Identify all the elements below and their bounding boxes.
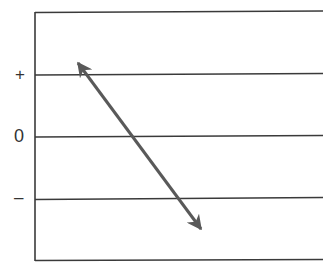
- plus-label: +: [15, 66, 25, 83]
- bottom-border-line: [35, 260, 323, 261]
- top-border-line: [35, 11, 323, 13]
- double-arrow: [78, 63, 201, 229]
- zero-label: 0: [14, 127, 24, 145]
- minus-label: –: [14, 189, 23, 206]
- plus-line: [35, 74, 323, 76]
- zero-line: [35, 136, 323, 138]
- axis-diagram: [0, 0, 333, 267]
